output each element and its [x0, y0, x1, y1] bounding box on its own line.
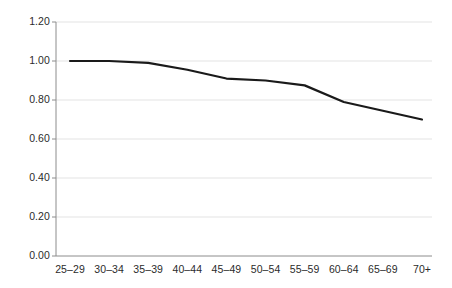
- x-axis-tick-label: 50–54: [244, 263, 288, 275]
- chart-canvas: [0, 0, 452, 288]
- x-axis-tick-label: 55–59: [283, 263, 327, 275]
- x-axis-tick-label: 35–39: [126, 263, 170, 275]
- x-axis-tick-label: 40–44: [165, 263, 209, 275]
- y-axis-tick-label: 0.20: [10, 210, 50, 222]
- data-series-line: [70, 61, 422, 120]
- y-axis-tick-label: 1.20: [10, 15, 50, 27]
- y-axis-tick-label: 0.00: [10, 249, 50, 261]
- y-axis-tick-label: 1.00: [10, 54, 50, 66]
- y-axis-tick-label: 0.40: [10, 171, 50, 183]
- y-gridlines: [56, 22, 432, 217]
- y-axis-tick-label: 0.60: [10, 132, 50, 144]
- x-axis-tick-label: 30–34: [87, 263, 131, 275]
- line-chart: 0.000.200.400.600.801.001.20 25–2930–343…: [0, 0, 452, 288]
- x-axis-tick-label: 70+: [400, 263, 444, 275]
- x-axis-tick-label: 60–64: [322, 263, 366, 275]
- x-axis-tick-label: 65–69: [361, 263, 405, 275]
- x-axis-tick-label: 45–49: [204, 263, 248, 275]
- y-axis-tick-label: 0.80: [10, 93, 50, 105]
- x-axis-tick-label: 25–29: [48, 263, 92, 275]
- y-axis-ticks: [52, 22, 56, 256]
